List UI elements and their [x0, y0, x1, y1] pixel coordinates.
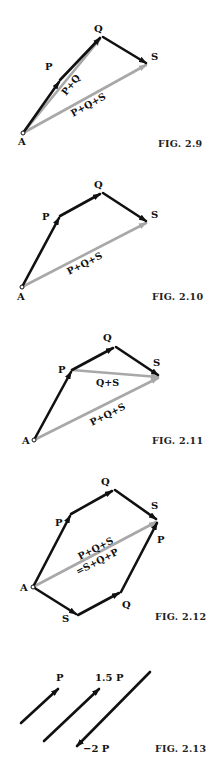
label-p: P: [45, 61, 53, 72]
origin-point: [31, 585, 35, 589]
label-q: Q: [103, 332, 112, 343]
label-q-plus-s: Q+S: [96, 377, 119, 388]
caption: FIG. 2.13: [155, 743, 206, 754]
label-q: Q: [94, 179, 103, 190]
label-q-lower: Q: [122, 599, 131, 610]
label-p: P: [56, 672, 64, 683]
caption: FIG. 2.11: [152, 435, 203, 446]
label-s: S: [151, 209, 158, 220]
label-s: S: [153, 357, 160, 368]
vector-s: [103, 193, 146, 221]
vector-q-plus-s: [72, 370, 158, 377]
vector-p-lower: [121, 523, 157, 592]
vector-q-lower: [78, 593, 119, 615]
label-p: P: [58, 364, 66, 375]
vector-s-lower: [33, 587, 76, 614]
vector-p: [21, 689, 58, 723]
label-s-upper: S: [151, 500, 158, 511]
label-q-upper: Q: [101, 476, 110, 487]
vector-q: [72, 348, 113, 370]
figure-2-10: A P Q S P+Q+S FIG. 2.10: [16, 179, 204, 302]
figure-2-13: P 1.5 P −2 P FIG. 2.13: [21, 672, 206, 754]
vector-q: [60, 38, 100, 80]
vector-p-plus-q-plus-s: [23, 65, 146, 133]
vector-minus-2p: [77, 672, 150, 746]
label-s: S: [151, 51, 158, 62]
caption: FIG. 2.12: [155, 611, 206, 622]
vector-s-upper: [115, 490, 156, 519]
label-a: A: [17, 136, 26, 147]
label-a: A: [16, 291, 25, 302]
label-s-lower: S: [62, 613, 69, 624]
label-minus-2p: −2 P: [83, 743, 110, 754]
origin-point: [32, 438, 36, 442]
vector-s: [103, 37, 146, 63]
origin-point: [20, 285, 24, 289]
label-p-upper: P: [55, 517, 63, 528]
vector-q-upper: [71, 491, 112, 514]
figure-2-12: A P Q S P Q S P+Q+S =S+Q+P FIG. 2.12: [19, 476, 206, 624]
label-1-5p: 1.5 P: [95, 672, 124, 683]
vector-p: [23, 82, 59, 133]
vector-q: [60, 194, 100, 216]
label-p: P: [42, 211, 50, 222]
vector-addition-figures: A P Q S P+Q P+Q+S FIG. 2.9 A P Q S P+Q+S…: [0, 0, 210, 769]
label-a: A: [21, 435, 30, 446]
figure-2-11: A P Q S Q+S P+Q+S FIG. 2.11: [21, 332, 203, 446]
caption: FIG. 2.9: [158, 138, 203, 149]
label-a: A: [19, 582, 28, 593]
label-q: Q: [94, 23, 103, 34]
vector-s: [116, 347, 158, 375]
origin-point: [21, 131, 25, 135]
label-p-lower: P: [157, 534, 165, 545]
caption: FIG. 2.10: [152, 291, 204, 302]
figure-2-9: A P Q S P+Q P+Q+S FIG. 2.9: [17, 23, 203, 149]
